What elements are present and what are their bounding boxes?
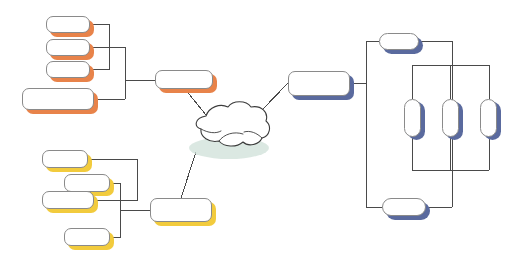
node-b2[interactable] [379, 33, 419, 50]
node-o5[interactable] [155, 70, 213, 89]
node-b1[interactable] [288, 71, 350, 96]
node-o3[interactable] [46, 61, 90, 78]
node-b4[interactable] [442, 99, 459, 137]
node-b6[interactable] [382, 198, 426, 216]
node-y4[interactable] [64, 228, 110, 246]
cloud-icon [196, 102, 269, 146]
node-o4[interactable] [22, 88, 94, 110]
node-o2[interactable] [46, 39, 90, 56]
node-y5[interactable] [150, 198, 212, 222]
node-b3[interactable] [404, 99, 421, 137]
node-o1[interactable] [46, 16, 90, 33]
node-y1[interactable] [42, 150, 88, 168]
node-b5[interactable] [480, 99, 497, 137]
node-y3[interactable] [42, 191, 94, 209]
diagram-canvas [0, 0, 520, 258]
node-y2[interactable] [64, 174, 110, 192]
